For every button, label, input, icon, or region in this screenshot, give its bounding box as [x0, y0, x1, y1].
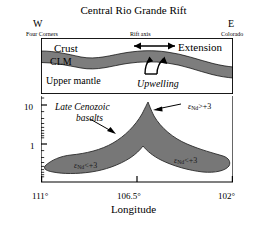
colorado-label: Colorado: [221, 31, 243, 37]
epsilon-nd-high-label: εNd>+3: [188, 103, 211, 112]
epsilon-nd-low-west-label: εNd<+3: [74, 162, 97, 171]
east-direction-label: E: [228, 19, 234, 29]
x-tick-label-102: 102°: [218, 192, 235, 201]
figure-container: Central Rio Grande Rift W E Four Corners…: [0, 0, 267, 226]
x-tick-label-111: 111°: [32, 192, 48, 201]
y-tick-label-1: 1: [30, 142, 35, 151]
west-direction-label: W: [33, 19, 42, 29]
rift-axis-label: Rift axis: [130, 31, 151, 37]
epsilon-nd-low-east-label: εNd<+3: [174, 157, 197, 166]
y-tick-label-10: 10: [24, 103, 33, 112]
upwelling-label: Upwelling: [137, 79, 179, 89]
epsilon-low-value: <+3: [84, 161, 97, 170]
late-cenozoic-label: Late Cenozoic: [55, 103, 110, 113]
clm-label: CLM: [50, 57, 72, 67]
x-axis-label: Longitude: [0, 204, 267, 215]
upper-mantle-label: Upper mantle: [46, 76, 101, 86]
basalts-label: basalts: [76, 114, 103, 124]
extension-label: Extension: [178, 42, 222, 53]
x-tick-label-106-5: 106.5°: [117, 192, 141, 201]
crust-label: Crust: [54, 43, 78, 54]
page-title: Central Rio Grande Rift: [0, 5, 267, 16]
four-corners-label: Four Corners: [26, 31, 58, 37]
epsilon-low-value: <+3: [184, 156, 197, 165]
epsilon-high-value: >+3: [198, 102, 211, 111]
